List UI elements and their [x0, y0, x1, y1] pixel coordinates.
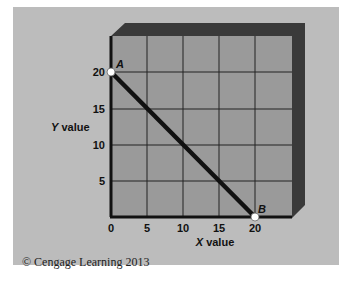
y-axis-label: Y value — [51, 121, 90, 133]
x-tick-15: 15 — [213, 222, 225, 234]
x-tick-20: 20 — [249, 222, 261, 234]
x-tick-5: 5 — [144, 222, 150, 234]
x-tick-0: 0 — [108, 222, 114, 234]
x-axis-label: X value — [195, 236, 235, 248]
point-a-label: A — [115, 58, 124, 70]
point-a — [107, 68, 115, 76]
line-chart: A B 20 15 10 5 0 5 10 15 20 X value Y va… — [0, 0, 346, 286]
x-tick-10: 10 — [177, 222, 189, 234]
y-tick-20: 20 — [93, 66, 105, 78]
y-tick-5: 5 — [99, 175, 105, 187]
y-tick-10: 10 — [93, 139, 105, 151]
y-axis-label-text: value — [58, 121, 89, 133]
plot-area — [111, 36, 292, 217]
y-tick-15: 15 — [93, 103, 105, 115]
point-b-label: B — [258, 203, 266, 215]
copyright-notice: © Cengage Learning 2013 — [22, 255, 149, 270]
x-axis-label-text: value — [203, 236, 234, 248]
